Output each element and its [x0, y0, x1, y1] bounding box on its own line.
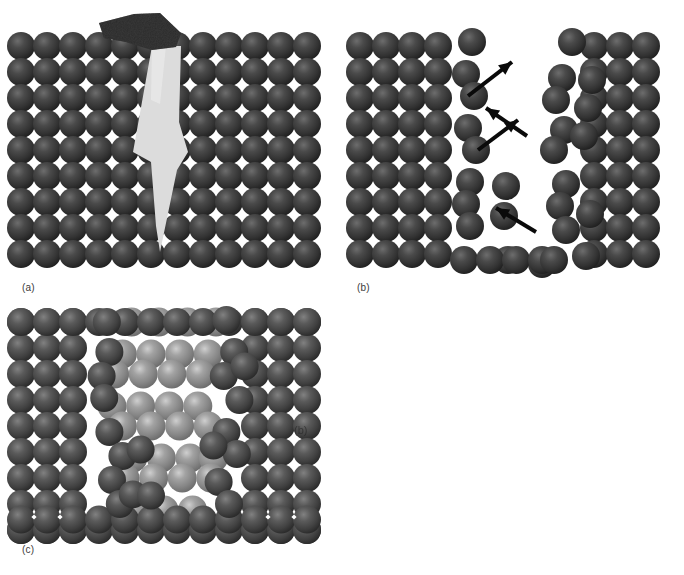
atom-sphere-icon: [606, 136, 634, 164]
panel-a-canvas: [0, 0, 350, 300]
lattice-gap-marker: [370, 212, 375, 217]
panel-a-label: (a): [22, 282, 35, 293]
atom-sphere-icon: [241, 136, 269, 164]
atom-sphere-icon: [632, 214, 660, 242]
lattice-gap-marker: [57, 488, 62, 493]
atom-sphere-icon: [293, 240, 321, 268]
atom-sphere-icon: [7, 188, 35, 216]
lattice-gap-marker: [135, 238, 140, 243]
atom-sphere-icon: [7, 464, 35, 492]
lattice-gap-marker: [213, 160, 218, 165]
atom-sphere-icon: [572, 242, 600, 270]
panel-c: (b) (c): [0, 300, 350, 575]
lattice-gap-marker: [265, 410, 270, 415]
atom-sphere-icon: [267, 188, 295, 216]
atom-sphere-icon: [7, 506, 35, 534]
atom-sphere-icon: [293, 360, 321, 388]
lattice-gap-marker: [83, 134, 88, 139]
atom-sphere-icon: [241, 240, 269, 268]
atom-sphere-icon: [476, 246, 504, 274]
lattice-gap-marker: [630, 56, 635, 61]
lattice-gap-marker: [422, 108, 427, 113]
lattice-gap-marker: [31, 462, 36, 467]
lattice-gap-marker: [291, 358, 296, 363]
atom-sphere-icon: [267, 136, 295, 164]
atom-sphere-icon: [293, 412, 321, 440]
lattice-gap-marker: [604, 56, 609, 61]
atom-sphere-icon: [398, 110, 426, 138]
atom-sphere-icon: [189, 110, 217, 138]
lattice-gap-marker: [265, 134, 270, 139]
atom-sphere-icon: [85, 188, 113, 216]
lattice-gap-marker: [630, 108, 635, 113]
lattice-gap-marker: [422, 56, 427, 61]
lattice-gap-marker: [396, 134, 401, 139]
lattice-gap-marker: [187, 238, 192, 243]
atom-sphere-icon: [458, 28, 486, 56]
lattice-gap-marker: [187, 82, 192, 87]
lattice-gap-marker: [109, 186, 114, 191]
atom-sphere-icon: [59, 464, 87, 492]
atom-sphere-icon: [267, 412, 295, 440]
lattice-gap-marker: [422, 186, 427, 191]
lattice-gap-marker: [291, 488, 296, 493]
atom-sphere-icon: [59, 308, 87, 336]
atom-sphere-icon: [632, 110, 660, 138]
atom-sphere-icon: [85, 110, 113, 138]
atom-sphere-icon: [85, 84, 113, 112]
atom-sphere-icon: [59, 506, 87, 534]
atom-sphere-icon: [398, 136, 426, 164]
atom-sphere-icon: [7, 308, 35, 336]
lattice-gap-marker: [291, 332, 296, 337]
atom-sphere-icon: [267, 464, 295, 492]
lattice-gap-marker: [239, 134, 244, 139]
atom-sphere-icon: [215, 58, 243, 86]
atom-sphere-icon: [215, 32, 243, 60]
panel-a: (a): [0, 0, 350, 300]
lattice-gap-marker: [109, 82, 114, 87]
atom-sphere-icon: [59, 386, 87, 414]
lattice-gap-marker: [604, 160, 609, 165]
atom-sphere-icon: [241, 506, 269, 534]
lattice-gap-marker: [31, 56, 36, 61]
lattice-gap-marker: [187, 212, 192, 217]
atom-sphere-icon: [346, 32, 374, 60]
atom-sphere-icon: [267, 84, 295, 112]
atom-sphere-icon: [59, 84, 87, 112]
lattice-gap-marker: [396, 212, 401, 217]
atom-sphere-icon: [215, 188, 243, 216]
lattice-gap-marker: [31, 488, 36, 493]
atom-sphere-icon: [241, 110, 269, 138]
atom-sphere-icon: [552, 216, 580, 244]
atom-sphere-icon: [546, 192, 574, 220]
atom-sphere-icon: [7, 240, 35, 268]
atom-sphere-icon: [424, 84, 452, 112]
atom-sphere-icon: [293, 214, 321, 242]
lattice-gap-marker: [57, 384, 62, 389]
lattice-gap-marker: [265, 384, 270, 389]
atom-sphere-icon: [606, 58, 634, 86]
lattice-gap-marker: [291, 108, 296, 113]
atom-sphere-icon: [456, 212, 484, 240]
lattice-gap-marker: [291, 410, 296, 415]
atom-sphere-icon: [111, 58, 139, 86]
lattice-gap-marker: [57, 410, 62, 415]
lattice-gap-marker: [291, 436, 296, 441]
atom-sphere-icon: [293, 32, 321, 60]
atom-sphere-icon: [127, 436, 155, 464]
atom-sphere-icon: [7, 438, 35, 466]
lattice-gap-marker: [31, 332, 36, 337]
atom-sphere-icon: [111, 110, 139, 138]
lattice-gap-marker: [630, 134, 635, 139]
atom-sphere-icon: [372, 162, 400, 190]
lattice-gap-marker: [57, 82, 62, 87]
panel-c-canvas: [0, 300, 350, 575]
atom-sphere-icon: [267, 110, 295, 138]
lattice-gap-marker: [109, 238, 114, 243]
atom-sphere-icon: [85, 240, 113, 268]
atom-sphere-icon: [189, 32, 217, 60]
atom-sphere-icon: [293, 110, 321, 138]
atom-sphere-icon: [267, 334, 295, 362]
atom-sphere-icon: [168, 464, 197, 493]
atom-sphere-icon: [163, 214, 191, 242]
